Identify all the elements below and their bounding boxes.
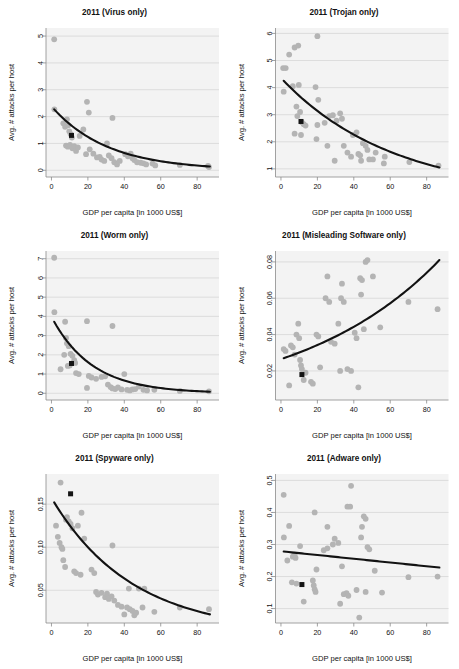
scatter-point xyxy=(372,568,378,574)
scatter-point xyxy=(382,154,388,160)
scatter-point xyxy=(339,281,345,287)
scatter-point xyxy=(358,292,364,298)
panel-title: 2011 (Worm only) xyxy=(81,231,149,240)
x-tick-label: 0 xyxy=(279,405,283,414)
scatter-point xyxy=(313,589,319,595)
scatter-point xyxy=(55,534,61,540)
x-tick-label: 20 xyxy=(313,405,321,414)
scatter-point xyxy=(61,352,67,358)
x-axis-label: GDP per capita [in 1000 US$] xyxy=(83,654,183,663)
y-tick-label: 3 xyxy=(36,334,45,338)
y-tick-label: 0.2 xyxy=(265,572,274,582)
scatter-point xyxy=(355,384,361,390)
scatter-point xyxy=(370,156,376,162)
scatter-point xyxy=(377,324,383,330)
chart-panel: 2011 (Worm only)02040608001234567GDP per… xyxy=(0,223,229,446)
y-tick-label: 0.1 xyxy=(265,604,274,614)
scatter-point xyxy=(298,132,304,138)
scatter-point xyxy=(314,136,320,142)
scatter-point xyxy=(60,557,66,563)
y-tick-label: 0.3 xyxy=(265,539,274,549)
scatter-point xyxy=(58,480,64,486)
x-tick-label: 80 xyxy=(193,628,201,637)
scatter-point xyxy=(110,115,116,121)
scatter-point xyxy=(366,546,372,552)
scatter-point xyxy=(62,564,68,570)
y-tick-label: 0.5 xyxy=(265,475,274,485)
scatter-point xyxy=(281,535,287,541)
y-tick-label: 2 xyxy=(265,140,274,144)
scatter-point xyxy=(296,82,302,88)
x-tick-label: 40 xyxy=(350,182,358,191)
scatter-point xyxy=(76,371,82,377)
chart-svg: 2011 (Virus only)020406080012345GDP per … xyxy=(0,0,229,223)
scatter-point xyxy=(358,158,364,164)
scatter-point xyxy=(119,387,125,393)
scatter-point xyxy=(315,334,321,340)
scatter-point xyxy=(297,543,303,549)
scatter-point xyxy=(314,33,320,39)
y-tick-label: 6 xyxy=(265,31,274,35)
x-axis-label: GDP per capita [in 1000 US$] xyxy=(312,208,412,217)
x-tick-label: 80 xyxy=(193,182,201,191)
x-tick-label: 0 xyxy=(49,628,53,637)
x-tick-label: 60 xyxy=(386,628,394,637)
highlight-marker xyxy=(298,119,303,124)
scatter-point xyxy=(330,112,336,118)
scatter-point xyxy=(359,524,365,530)
scatter-point xyxy=(144,387,150,393)
x-tick-label: 60 xyxy=(157,182,165,191)
scatter-point xyxy=(117,158,123,164)
scatter-point xyxy=(341,299,347,305)
x-tick-label: 40 xyxy=(120,182,128,191)
scatter-point xyxy=(84,318,90,324)
highlight-marker xyxy=(299,582,304,587)
y-tick-label: 0.08 xyxy=(265,255,274,269)
y-tick-label: 0.4 xyxy=(265,507,274,517)
scatter-point xyxy=(341,143,347,149)
scatter-point xyxy=(332,341,338,347)
x-tick-label: 20 xyxy=(313,628,321,637)
scatter-point xyxy=(332,158,338,164)
scatter-point xyxy=(365,257,371,263)
y-tick-label: 3 xyxy=(36,88,45,92)
highlight-marker xyxy=(69,133,74,138)
scatter-point xyxy=(295,321,301,327)
highlight-marker xyxy=(69,361,74,366)
scatter-point xyxy=(133,610,139,616)
scatter-point xyxy=(365,147,371,153)
scatter-point xyxy=(295,43,301,49)
y-tick-label: 2 xyxy=(36,115,45,119)
scatter-point xyxy=(286,523,292,529)
chart-svg: 2011 (Misleading Software only)020406080… xyxy=(229,223,459,446)
scatter-point xyxy=(313,84,319,90)
scatter-point xyxy=(284,558,290,564)
scatter-point xyxy=(75,523,81,529)
y-tick-label: 1 xyxy=(36,141,45,145)
x-tick-label: 0 xyxy=(279,182,283,191)
y-tick-label: 3 xyxy=(265,113,274,117)
scatter-point xyxy=(62,319,68,325)
y-tick-label: 0.10 xyxy=(36,540,45,554)
plot-area-background xyxy=(46,474,219,623)
scatter-point xyxy=(93,376,99,382)
y-tick-label: 6 xyxy=(36,276,45,280)
y-tick-label: 0 xyxy=(36,391,45,395)
y-axis-label: Avg. # attacks per host xyxy=(237,286,246,364)
chart-svg: 2011 (Adware only)0204060800.10.20.30.40… xyxy=(229,446,459,669)
scatter-point xyxy=(325,143,331,149)
scatter-point xyxy=(290,344,296,350)
scatter-point xyxy=(121,611,127,617)
scatter-point xyxy=(101,158,107,164)
figure-panel-grid: 2011 (Virus only)020406080012345GDP per … xyxy=(0,0,459,669)
x-axis-label: GDP per capita [in 1000 US$] xyxy=(83,431,183,440)
scatter-point xyxy=(292,131,298,137)
scatter-point xyxy=(325,274,331,280)
panel-title: 2011 (Adware only) xyxy=(307,454,381,463)
y-tick-label: 0 xyxy=(36,168,45,172)
scatter-point xyxy=(51,309,57,315)
x-tick-label: 40 xyxy=(350,405,358,414)
x-axis-label: GDP per capita [in 1000 US$] xyxy=(312,431,412,440)
scatter-point xyxy=(294,104,300,110)
y-tick-label: 0.05 xyxy=(36,583,45,597)
